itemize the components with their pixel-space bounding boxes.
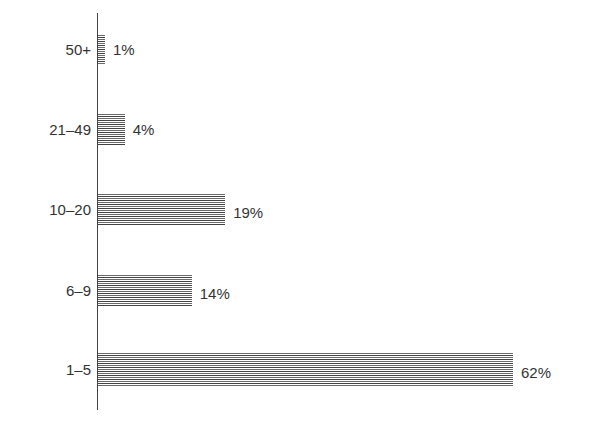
category-label: 6–9 — [7, 282, 91, 300]
value-label: 14% — [200, 285, 230, 303]
category-label: 21–49 — [7, 121, 91, 139]
bar-3 — [98, 194, 225, 225]
value-label: 19% — [233, 204, 263, 222]
bar-4 — [98, 275, 192, 307]
bar-1 — [98, 35, 105, 64]
bar-2 — [98, 114, 125, 145]
bar-5 — [98, 353, 513, 386]
category-label: 50+ — [7, 41, 91, 59]
value-label: 4% — [133, 121, 155, 139]
value-label: 62% — [521, 364, 551, 382]
category-label: 1–5 — [7, 361, 91, 379]
value-label: 1% — [113, 41, 135, 59]
category-label: 10–20 — [7, 201, 91, 219]
horizontal-bar-chart: 50+1%21–494%10–2019%6–914%1–562% — [0, 0, 592, 431]
